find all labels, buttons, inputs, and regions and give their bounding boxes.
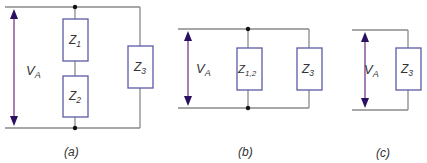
caption-a: (a) bbox=[64, 145, 79, 159]
panel-b: VA Z1,2 Z3 (b) bbox=[178, 27, 322, 159]
caption-c: (c) bbox=[376, 146, 390, 160]
arrow-head-down-icon bbox=[10, 116, 18, 126]
voltage-label: VA bbox=[26, 63, 41, 80]
voltage-label: VA bbox=[196, 61, 211, 78]
arrow-head-up-icon bbox=[184, 31, 192, 41]
panel-a: VA Z1 Z2 Z3 (a) bbox=[5, 5, 153, 159]
junction-node bbox=[73, 126, 77, 130]
caption-b: (b) bbox=[238, 145, 253, 159]
arrow-head-up-icon bbox=[10, 9, 18, 19]
voltage-label: VA bbox=[364, 62, 379, 79]
arrow-head-down-icon bbox=[184, 96, 192, 106]
junction-node bbox=[246, 106, 250, 110]
junction-node bbox=[73, 5, 77, 9]
arrow-head-up-icon bbox=[361, 32, 369, 42]
junction-node bbox=[246, 27, 250, 31]
circuit-diagram: VA Z1 Z2 Z3 (a) VA Z1,2 Z3 (b) bbox=[0, 0, 427, 163]
arrow-head-down-icon bbox=[361, 98, 369, 108]
panel-c: VA Z3 (c) bbox=[352, 30, 421, 160]
